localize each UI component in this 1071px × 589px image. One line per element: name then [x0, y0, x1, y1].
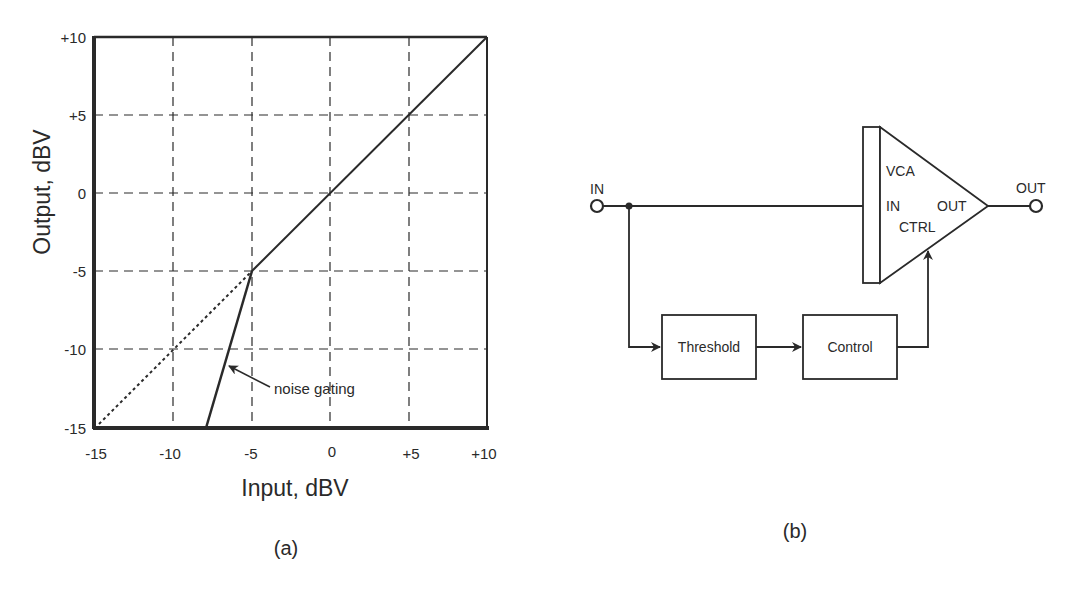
vca-out-label: OUT	[937, 198, 967, 214]
svg-text:-10: -10	[64, 341, 86, 358]
output-label: OUT	[1016, 180, 1046, 196]
input-terminal-icon	[591, 200, 603, 212]
svg-text:0: 0	[328, 443, 336, 460]
input-label: IN	[590, 181, 604, 197]
vca-input-bar	[863, 127, 880, 283]
unity-line	[252, 37, 487, 271]
svg-text:-5: -5	[73, 263, 86, 280]
x-axis-title: Input, dBV	[241, 475, 349, 501]
figure: noise gating +10 +5 0 -5 -10 -15 -15 -10…	[0, 0, 1071, 589]
annotation-arrow	[229, 366, 270, 387]
y-tick-labels: +10 +5 0 -5 -10 -15	[61, 29, 86, 437]
caption-a: (a)	[274, 537, 298, 559]
svg-text:-15: -15	[85, 445, 107, 462]
svg-text:0: 0	[78, 185, 86, 202]
vca-ctrl-label: CTRL	[899, 219, 936, 235]
y-axis-title: Output, dBV	[29, 129, 55, 255]
block-diagram: IN Threshold Control VCA IN OUT CTRL OUT…	[590, 127, 1046, 542]
vca-title: VCA	[886, 163, 915, 179]
annotation-label: noise gating	[274, 380, 355, 397]
vca-in-label: IN	[886, 198, 900, 214]
x-tick-labels: -15 -10 -5 0 +5 +10	[85, 443, 497, 462]
control-label: Control	[827, 339, 872, 355]
svg-text:+10: +10	[61, 29, 86, 46]
svg-text:+5: +5	[402, 445, 419, 462]
chart-panel: noise gating +10 +5 0 -5 -10 -15 -15 -10…	[29, 29, 497, 559]
caption-b: (b)	[783, 520, 807, 542]
svg-text:+10: +10	[471, 445, 496, 462]
svg-text:-15: -15	[64, 420, 86, 437]
svg-text:+5: +5	[69, 107, 86, 124]
svg-text:-10: -10	[159, 445, 181, 462]
svg-text:-5: -5	[244, 445, 257, 462]
output-terminal-icon	[1030, 200, 1042, 212]
threshold-label: Threshold	[678, 339, 740, 355]
